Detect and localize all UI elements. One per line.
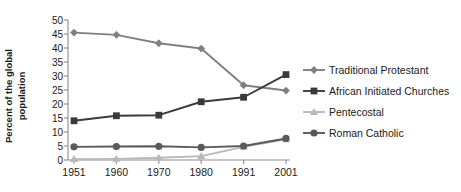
series-african-initiated-churches	[71, 71, 290, 124]
legend-label: Roman Catholic	[329, 127, 404, 139]
y-axis-title-line1: Percent of the global	[3, 49, 14, 143]
legend-item-pentecostal[interactable]: Pentecostal	[303, 106, 384, 118]
y-tick-label: 25	[52, 85, 64, 96]
y-tick-label: 10	[52, 127, 64, 138]
x-tick-label: 1960	[105, 166, 129, 178]
data-point-marker	[113, 112, 120, 119]
y-tick-label: 40	[52, 43, 64, 54]
y-axis-tick-labels: 05101520253035404550	[52, 15, 64, 166]
y-axis-tick-marks	[64, 20, 68, 160]
data-point-marker	[113, 31, 121, 39]
series-roman-catholic	[70, 135, 289, 151]
data-point-marker	[70, 29, 78, 37]
series-traditional-protestant	[70, 29, 290, 95]
data-point-marker	[240, 94, 247, 101]
series-line	[74, 75, 286, 121]
line-chart: Percent of the global population 0510152…	[0, 0, 461, 192]
y-tick-label: 5	[57, 141, 63, 152]
y-tick-label: 35	[52, 57, 64, 68]
data-point-marker	[310, 129, 317, 136]
y-tick-label: 0	[57, 155, 63, 166]
chart-canvas: Percent of the global population 0510152…	[0, 0, 461, 192]
y-tick-label: 15	[52, 113, 64, 124]
series-layer	[70, 29, 290, 162]
x-axis-tick-marks	[74, 160, 286, 164]
data-point-marker	[282, 135, 289, 142]
y-tick-label: 30	[52, 71, 64, 82]
legend-label: Pentecostal	[329, 106, 384, 118]
data-point-marker	[240, 142, 247, 149]
legend-item-traditional-protestant[interactable]: Traditional Protestant	[303, 64, 428, 76]
x-tick-label: 1980	[190, 166, 214, 178]
x-tick-label: 1951	[62, 166, 86, 178]
x-axis-tick-labels: 195119601970198019912001	[62, 166, 298, 178]
series-line	[74, 33, 286, 91]
y-tick-label: 45	[52, 29, 64, 40]
y-axis-title-line2: population	[16, 72, 27, 121]
data-point-marker	[198, 98, 205, 105]
x-tick-label: 1991	[232, 166, 256, 178]
data-point-marker	[155, 39, 163, 47]
chart-legend: Traditional ProtestantAfrican Initiated …	[303, 64, 449, 139]
x-tick-label: 2001	[274, 166, 298, 178]
data-point-marker	[71, 117, 78, 124]
series-line	[74, 138, 286, 147]
y-axis-title: Percent of the global population	[3, 49, 27, 143]
data-point-marker	[310, 66, 318, 74]
x-tick-label: 1970	[147, 166, 171, 178]
y-tick-label: 50	[52, 15, 64, 26]
data-point-marker	[283, 71, 290, 78]
y-tick-label: 20	[52, 99, 64, 110]
series-pentecostal	[70, 135, 290, 162]
data-point-marker	[282, 87, 290, 95]
data-point-marker	[155, 143, 162, 150]
legend-item-roman-catholic[interactable]: Roman Catholic	[303, 127, 404, 139]
legend-label: African Initiated Churches	[329, 85, 449, 97]
data-point-marker	[155, 112, 162, 119]
legend-item-african-initiated-churches[interactable]: African Initiated Churches	[303, 85, 449, 97]
data-point-marker	[70, 143, 77, 150]
series-line	[74, 139, 286, 159]
data-point-marker	[311, 88, 318, 95]
data-point-marker	[198, 144, 205, 151]
legend-label: Traditional Protestant	[329, 64, 428, 76]
data-point-marker	[113, 143, 120, 150]
